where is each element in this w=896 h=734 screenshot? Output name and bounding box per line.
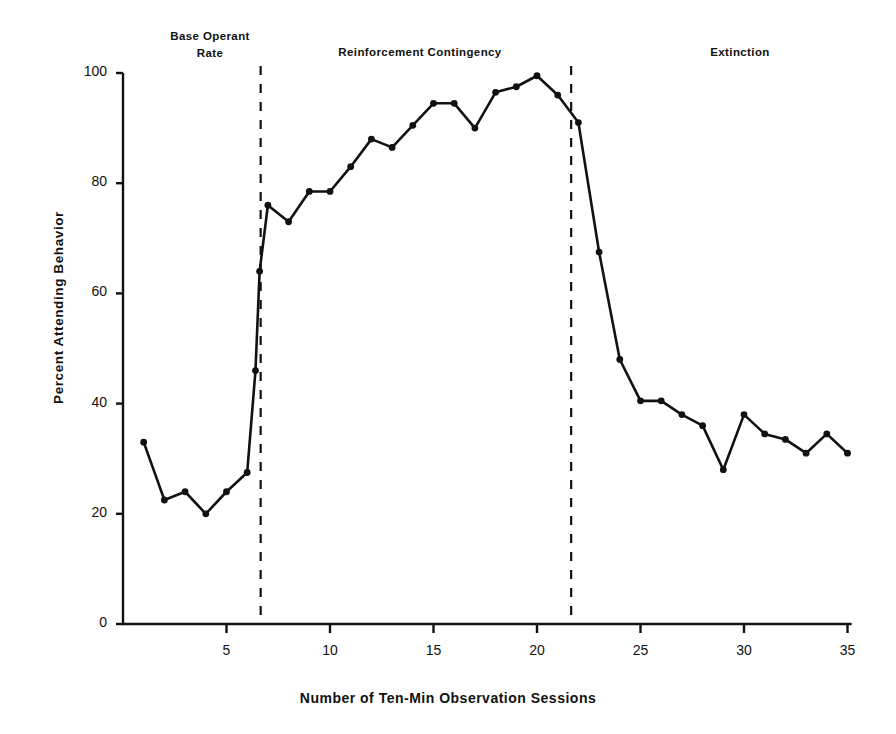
phase-label-extinction: Extinction [630,44,850,61]
data-point-marker [616,356,623,363]
data-point-marker [761,431,768,438]
y-axis-title: Percent Attending Behavior [51,198,66,418]
data-point-marker [223,488,230,495]
data-point-marker [472,125,479,132]
y-axis-tick-label: 0 [61,614,107,630]
y-axis-tick-label: 40 [61,394,107,410]
x-axis-tick-label: 20 [517,642,557,658]
data-point-marker [534,72,541,79]
data-point-marker [285,218,292,225]
data-point-marker [803,450,810,457]
data-point-marker [327,188,334,195]
data-point-marker [244,469,251,476]
data-point-marker [699,422,706,429]
data-point-marker [637,397,644,404]
data-point-marker [575,119,582,126]
data-point-marker [347,163,354,170]
x-axis-tick-label: 25 [621,642,661,658]
chart-figure: Base Operant Rate Reinforcement Continge… [0,0,896,734]
axis-spine [123,73,852,624]
data-point-marker [368,136,375,143]
x-axis-tick-label: 15 [414,642,454,658]
y-axis-tick-label: 60 [61,283,107,299]
data-point-marker [252,367,259,374]
y-axis-tick-label: 20 [61,504,107,520]
data-point-marker [492,89,499,96]
data-line [144,76,848,514]
plot-area [0,0,896,734]
data-point-marker [430,100,437,107]
data-point-marker [679,411,686,418]
data-point-marker [409,122,416,129]
data-point-marker [140,439,147,446]
x-axis-title: Number of Ten-Min Observation Sessions [0,690,896,706]
data-point-marker [306,188,313,195]
data-point-marker [782,436,789,443]
y-axis-tick-label: 80 [61,173,107,189]
data-point-marker [161,497,168,504]
data-point-marker [658,397,665,404]
x-axis-tick-label: 30 [724,642,764,658]
data-point-marker [720,466,727,473]
phase-label-reinforcement-contingency: Reinforcement Contingency [270,44,570,61]
data-point-marker [513,83,520,90]
data-point-marker [844,450,851,457]
data-point-marker [202,510,209,517]
data-point-marker [451,100,458,107]
x-axis-tick-label: 10 [310,642,350,658]
data-point-marker [596,249,603,256]
data-point-marker [256,268,263,275]
data-point-marker [741,411,748,418]
data-point-marker [554,92,561,99]
data-point-marker [389,144,396,151]
data-point-marker [823,431,830,438]
y-axis-tick-label: 100 [61,63,107,79]
data-point-marker [182,488,189,495]
x-axis-tick-label: 5 [207,642,247,658]
data-point-marker [265,202,272,209]
x-axis-tick-label: 35 [828,642,868,658]
